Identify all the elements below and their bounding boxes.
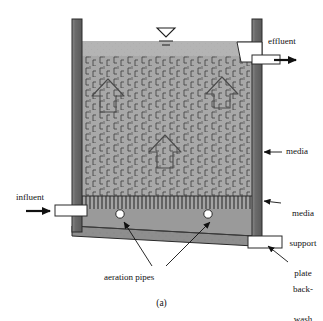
tank-left-wall [72, 19, 82, 232]
label-effluent: effluent [268, 36, 296, 46]
label-aeration-pipes: aeration pipes [104, 272, 154, 282]
label-backwash-drain-line-2: wash [283, 314, 323, 321]
label-media: media [286, 146, 308, 156]
filter-diagram-svg [0, 0, 323, 321]
label-backwash-drain: back- wash drain [283, 264, 323, 321]
label-backwash-drain-line-1: back- [283, 284, 323, 294]
label-influent: influent [16, 192, 44, 202]
label-media-support-plate-line-1: media [283, 208, 323, 218]
clear-water-zone [76, 41, 252, 56]
label-media-support-plate-line-2: support [283, 238, 323, 248]
media-bed [76, 56, 252, 196]
backwash-drain-pipe [248, 236, 282, 248]
influent-pipe [55, 205, 87, 216]
figure-caption: (a) [0, 298, 323, 308]
figure-canvas: effluent media media support plate back-… [0, 0, 323, 321]
media-support-plate [76, 196, 252, 211]
